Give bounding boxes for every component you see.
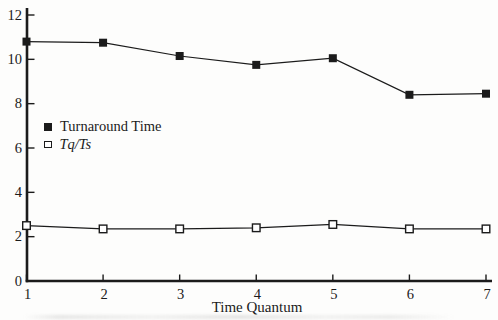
y-tick-label-2: 2 <box>15 228 22 244</box>
data-point-turnaround-time-x5 <box>329 54 337 62</box>
data-point-turnaround-time-x3 <box>176 52 184 60</box>
x-axis-title: Time Quantum <box>26 299 488 316</box>
y-tick-label-10: 10 <box>8 51 23 67</box>
y-tick-label-8: 8 <box>15 95 22 111</box>
data-point-tq-ts-x1 <box>23 222 31 230</box>
data-point-turnaround-time-x1 <box>23 38 31 46</box>
data-point-turnaround-time-x7 <box>482 90 490 98</box>
chart-figure: 0246810121234567 Turnaround Time Tq/Ts T… <box>0 0 498 320</box>
y-tick-label-4: 4 <box>15 184 23 200</box>
data-point-tq-ts-x3 <box>176 225 184 233</box>
data-point-turnaround-time-x4 <box>252 61 260 69</box>
data-point-turnaround-time-x2 <box>99 39 107 47</box>
legend-label-tq-ts: Tq/Ts <box>60 136 92 154</box>
data-point-tq-ts-x4 <box>252 224 260 232</box>
data-point-tq-ts-x6 <box>406 225 414 233</box>
scan-artifact-smudge <box>24 315 454 319</box>
legend: Turnaround Time Tq/Ts <box>44 118 161 153</box>
data-point-tq-ts-x2 <box>99 225 107 233</box>
legend-item-turnaround-time: Turnaround Time <box>44 118 161 136</box>
y-tick-label-12: 12 <box>8 7 23 23</box>
legend-label-turnaround-time: Turnaround Time <box>60 118 161 136</box>
line-chart-canvas: 0246810121234567 <box>0 0 498 320</box>
y-tick-label-6: 6 <box>15 140 22 156</box>
open-square-marker-icon <box>44 141 52 149</box>
legend-item-tq-ts: Tq/Ts <box>44 136 161 154</box>
y-tick-label-0: 0 <box>15 273 22 289</box>
data-point-turnaround-time-x6 <box>405 91 413 99</box>
filled-square-marker-icon <box>44 123 52 131</box>
data-point-tq-ts-x5 <box>329 221 337 229</box>
data-point-tq-ts-x7 <box>482 225 490 233</box>
